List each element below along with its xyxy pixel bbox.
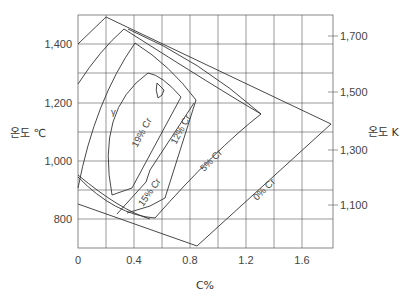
y-axis-label: 온도 ℃ (10, 127, 46, 140)
label-19pct-cr: 19% Cr (129, 116, 154, 149)
chart: γ 19% Cr 12% Cr 15% Cr 5% Cr 0% Cr 1,400… (0, 0, 411, 300)
x-axis-label: C% (196, 279, 214, 292)
y-tick: 1,400 (44, 38, 72, 50)
gamma-label: γ (111, 106, 116, 117)
y-right-tick: 1,700 (340, 30, 368, 42)
label-12pct-cr: 12% Cr (168, 113, 193, 146)
x-tick: 1.2 (238, 254, 253, 266)
y-tick: 1,200 (44, 97, 72, 109)
y-right-tick: 1,500 (340, 86, 368, 98)
x-tick: 0.8 (182, 254, 197, 266)
y-tick: 1,000 (44, 155, 72, 167)
x-tick: 0 (75, 254, 81, 266)
label-15pct-cr: 15% Cr (136, 176, 163, 208)
y-right-tick: 1,300 (340, 144, 368, 156)
grid (78, 15, 338, 248)
series-0pct-cr (78, 17, 331, 246)
label-5pct-cr: 5% Cr (198, 147, 224, 173)
series-12pct-cr (78, 29, 261, 213)
y-tick: 800 (54, 213, 72, 225)
x-tick: 1.6 (294, 254, 309, 266)
label-0pct-cr: 0% Cr (251, 176, 277, 202)
series-5pct-cr (78, 29, 261, 218)
y-right-tick: 1,100 (340, 199, 368, 211)
y-right-axis-label: 온도 K (368, 126, 399, 139)
x-tick: 0.4 (126, 254, 141, 266)
